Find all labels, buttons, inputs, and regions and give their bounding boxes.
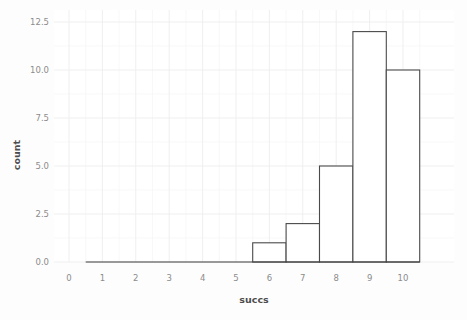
x-tick-label: 5 bbox=[233, 273, 238, 283]
y-tick-label: 2.5 bbox=[35, 209, 49, 219]
x-tick-label: 1 bbox=[100, 273, 105, 283]
x-tick-label: 9 bbox=[367, 273, 372, 283]
x-axis-title: succs bbox=[239, 294, 269, 305]
y-tick-label: 0.0 bbox=[35, 257, 49, 267]
y-tick-label: 7.5 bbox=[35, 113, 49, 123]
histogram-figure: 012345678910 0.02.55.07.510.012.5 succs … bbox=[0, 0, 467, 320]
y-tick-label: 5.0 bbox=[35, 161, 49, 171]
x-tick-label: 2 bbox=[133, 273, 138, 283]
y-axis-tick-labels: 0.02.55.07.510.012.5 bbox=[30, 17, 49, 267]
y-tick-label: 12.5 bbox=[30, 17, 49, 27]
histogram-bar bbox=[286, 224, 319, 262]
x-axis-tick-labels: 012345678910 bbox=[66, 273, 408, 283]
x-tick-label: 10 bbox=[398, 273, 409, 283]
x-tick-label: 7 bbox=[300, 273, 305, 283]
histogram-bar bbox=[253, 243, 286, 262]
x-tick-label: 4 bbox=[200, 273, 205, 283]
histogram-bar bbox=[386, 70, 419, 262]
histogram-bar bbox=[320, 166, 353, 262]
x-tick-label: 8 bbox=[333, 273, 338, 283]
x-tick-label: 3 bbox=[166, 273, 171, 283]
x-tick-label: 6 bbox=[267, 273, 272, 283]
y-tick-label: 10.0 bbox=[30, 65, 49, 75]
x-tick-label: 0 bbox=[66, 273, 71, 283]
y-axis-title: count bbox=[11, 139, 22, 170]
histogram-bar bbox=[353, 32, 386, 262]
